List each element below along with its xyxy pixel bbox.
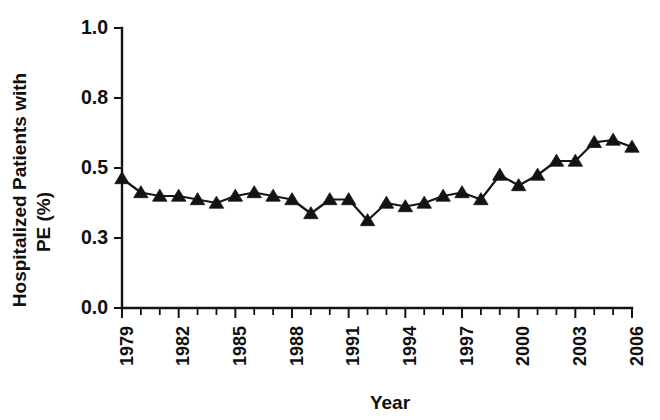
y-axis-title-line1: Hospitalized Patients with (9, 73, 30, 307)
x-tick-label: 2006 (627, 326, 647, 366)
x-tick-label: 1982 (173, 326, 193, 366)
y-tick-label: 1.0 (81, 16, 108, 38)
data-point-marker (115, 172, 129, 184)
y-axis (114, 28, 122, 308)
chart-figure: 0.00.30.50.81.0 197919821985198819911994… (0, 0, 660, 420)
x-tick-label: 1985 (230, 326, 250, 366)
data-point-marker (493, 168, 507, 180)
x-axis (122, 308, 632, 318)
series-polyline (122, 140, 632, 221)
x-tick-label: 1988 (287, 326, 307, 366)
x-tick-label: 1979 (117, 326, 137, 366)
x-tick-label: 1994 (400, 326, 420, 366)
x-tick-label: 1997 (457, 326, 477, 366)
data-point-marker (379, 196, 393, 208)
y-tick-label: 0.8 (81, 86, 108, 108)
x-axis-title: Year (370, 392, 411, 413)
y-tick-label: 0.0 (81, 296, 108, 318)
data-point-marker (606, 133, 620, 145)
line-chart-canvas: 0.00.30.50.81.0 197919821985198819911994… (0, 0, 660, 420)
y-tick-label: 0.5 (81, 156, 108, 178)
x-tick-label: 2000 (513, 326, 533, 366)
x-tick-label: 2003 (570, 326, 590, 366)
y-tick-labels: 0.00.30.50.81.0 (81, 16, 108, 318)
data-series-line (122, 140, 632, 221)
y-tick-label: 0.3 (81, 226, 108, 248)
x-tick-labels: 1979198219851988199119941997200020032006 (117, 326, 647, 366)
data-point-marker (247, 186, 261, 198)
x-tick-label: 1991 (343, 326, 363, 366)
y-axis-title-line2: PE (%) (33, 192, 54, 252)
data-point-marker (455, 186, 469, 198)
data-point-marker (511, 179, 525, 191)
